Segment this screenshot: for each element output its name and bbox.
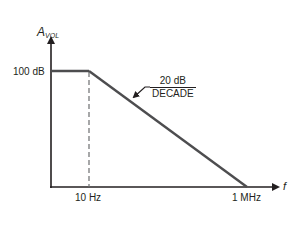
x-tick-10hz: 10 Hz — [75, 192, 101, 203]
slope-annotation: 20 dB DECADE — [150, 75, 196, 100]
slope-annotation-arrow — [134, 87, 150, 97]
y-axis-label-subscript: VOL — [45, 32, 59, 39]
slope-numerator: 20 dB — [150, 75, 196, 88]
y-axis-label-main: A — [37, 25, 45, 39]
slope-denominator: DECADE — [150, 88, 196, 100]
x-tick-1mhz: 1 MHz — [232, 192, 261, 203]
y-tick-100db: 100 dB — [13, 66, 45, 77]
x-axis-label: f — [283, 180, 286, 192]
y-axis-label: AVOL — [37, 25, 59, 39]
